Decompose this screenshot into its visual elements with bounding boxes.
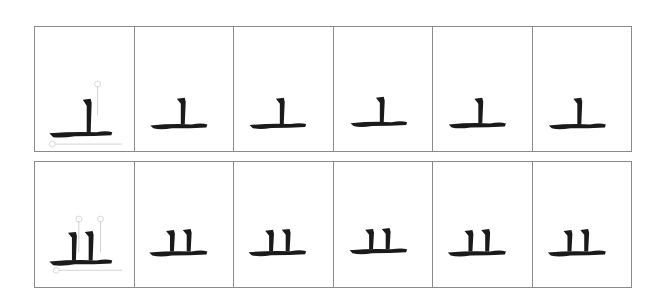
practice-cell bbox=[433, 162, 533, 287]
practice-row-2 bbox=[34, 161, 632, 288]
practice-cell bbox=[433, 27, 533, 151]
glyph-shang bbox=[533, 27, 632, 151]
practice-cell-annotated bbox=[35, 162, 135, 287]
practice-cell bbox=[334, 162, 434, 287]
glyph-shang bbox=[433, 27, 532, 151]
practice-cell bbox=[135, 162, 235, 287]
practice-cell-annotated bbox=[35, 27, 135, 151]
glyph-ye-bottom bbox=[433, 162, 532, 287]
glyph-shang bbox=[234, 27, 333, 151]
glyph-ye-bottom-with-stroke-order bbox=[35, 162, 134, 287]
glyph-ye-bottom bbox=[334, 162, 433, 287]
practice-cell bbox=[533, 162, 632, 287]
practice-cell bbox=[533, 27, 632, 151]
glyph-ye-bottom bbox=[234, 162, 333, 287]
glyph-shang bbox=[334, 27, 433, 151]
practice-cell bbox=[135, 27, 235, 151]
glyph-ye-bottom bbox=[533, 162, 632, 287]
glyph-shang bbox=[135, 27, 234, 151]
practice-row-1 bbox=[34, 26, 632, 152]
practice-cell bbox=[334, 27, 434, 151]
practice-cell bbox=[234, 162, 334, 287]
glyph-ye-bottom bbox=[135, 162, 234, 287]
practice-cell bbox=[234, 27, 334, 151]
glyph-shang-with-stroke-order bbox=[35, 27, 134, 151]
